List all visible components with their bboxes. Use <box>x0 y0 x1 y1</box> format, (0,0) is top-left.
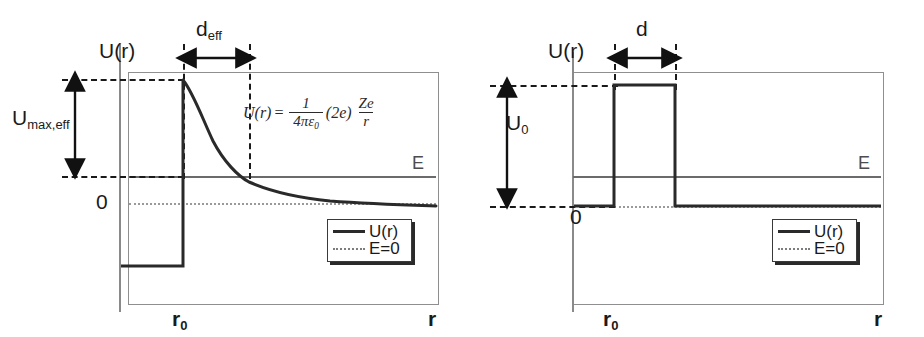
legend-item-ur-right: U(r) <box>778 223 850 240</box>
legend-item-e0-right: E=0 <box>778 240 850 257</box>
x-axis-label-left: r <box>428 308 436 329</box>
barrier-width-label-left: deff <box>196 18 222 39</box>
equation-lhs: U(r) <box>243 104 271 122</box>
legend-label-ur-right: U(r) <box>814 223 843 240</box>
barrier-height-label-right: U0 <box>506 112 528 133</box>
barrier-width-arrow-right <box>609 50 687 66</box>
dotted-line-icon <box>778 248 810 250</box>
legend-label-e0-left: E=0 <box>369 240 400 257</box>
panel-coulomb-barrier: U(r) Umax,eff deff E 0 r0 r U(r) = 1 4πε… <box>0 0 462 337</box>
solid-line-icon <box>778 230 810 233</box>
barrier-width-label-right: d <box>636 18 648 39</box>
x-axis-tick-r0-left: r0 <box>172 308 187 329</box>
barrier-height-arrow-right <box>500 78 516 218</box>
zero-label-left: 0 <box>96 191 108 212</box>
legend-item-ur-left: U(r) <box>333 223 405 240</box>
coulomb-equation: U(r) = 1 4πε0 (2e) Ze r <box>243 95 381 130</box>
energy-level-label-left: E <box>412 154 424 172</box>
x-axis-tick-r0-right: r0 <box>603 308 618 329</box>
equation-fraction-ze-r: Ze r <box>355 95 378 130</box>
barrier-height-label-left: Umax,eff <box>12 107 70 128</box>
panel-rectangular-barrier: U(r) U0 d E 0 r0 r U(r) E=0 <box>462 0 924 337</box>
zero-label-right: 0 <box>570 206 582 227</box>
y-axis-label-left: U(r) <box>99 40 135 61</box>
legend-label-ur-left: U(r) <box>369 223 398 240</box>
legend-label-e0-right: E=0 <box>814 240 845 257</box>
energy-level-label-right: E <box>858 154 870 172</box>
y-axis-label-right: U(r) <box>548 40 584 61</box>
equation-frac2-numerator: Ze <box>355 95 378 112</box>
potential-curve-right <box>462 0 924 337</box>
equation-fraction-prefactor: 1 4πε0 <box>289 95 323 130</box>
equation-frac2-denominator: r <box>359 112 373 130</box>
barrier-height-arrow-left <box>68 72 84 188</box>
x-axis-label-right: r <box>874 308 882 329</box>
dotted-line-icon <box>333 248 365 250</box>
equation-frac-numerator: 1 <box>298 95 314 112</box>
legend-item-e0-left: E=0 <box>333 240 405 257</box>
equation-frac-denominator: 4πε0 <box>289 112 323 130</box>
solid-line-icon <box>333 230 365 233</box>
barrier-width-arrow-left <box>178 50 258 66</box>
equation-equals: = <box>273 104 284 122</box>
equation-charge-term: (2e) <box>326 104 352 122</box>
legend-right: U(r) E=0 <box>772 219 857 262</box>
legend-left: U(r) E=0 <box>327 219 412 262</box>
